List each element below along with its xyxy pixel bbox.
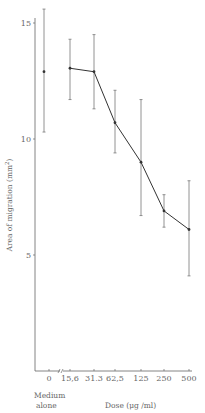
series-lines	[70, 68, 189, 229]
axis-break-mark-2	[61, 369, 63, 373]
x-tick-label: 62,5	[106, 374, 124, 383]
x-tick-label: 500	[181, 374, 196, 383]
data-point	[140, 161, 143, 164]
y-axis-title: Area of migration (mm2)	[4, 158, 14, 252]
data-point	[163, 210, 166, 213]
series-line	[70, 68, 189, 229]
x-tick-label: 0	[46, 374, 51, 383]
data-point	[43, 70, 46, 73]
data-point	[69, 67, 72, 70]
x-tick-label: 31.3	[85, 374, 103, 383]
chart: 51015 015,631.362,5125250500 Area of mig…	[0, 0, 205, 413]
y-tick-label: 15	[21, 19, 31, 28]
axes	[35, 18, 192, 373]
y-tick-label: 10	[21, 135, 31, 144]
data-point	[114, 121, 117, 124]
x-tick-label: 125	[133, 374, 148, 383]
medium-alone-label-line2: alone	[36, 401, 57, 410]
x-axis-title: Dose (μg /ml)	[105, 401, 156, 410]
x-tick-label: 15,6	[61, 374, 79, 383]
medium-alone-label-line1: Medium	[34, 391, 65, 400]
error-bars	[43, 9, 191, 276]
y-axis-title-main: Area of migration (mm	[5, 165, 14, 253]
x-tick-label: 250	[156, 374, 171, 383]
y-axis-title-end: )	[5, 158, 14, 161]
data-points	[43, 67, 191, 231]
data-point	[188, 228, 191, 231]
y-tick-label: 5	[26, 251, 31, 260]
data-point	[93, 70, 96, 73]
y-ticks: 51015	[21, 19, 35, 260]
